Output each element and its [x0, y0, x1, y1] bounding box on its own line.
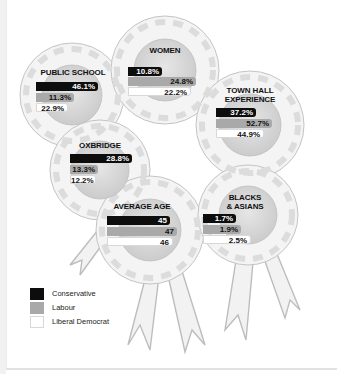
bar-conservative: 28.8% — [70, 154, 132, 163]
rosette-title-line1: TOWN HALL — [210, 86, 290, 95]
bar-labour: 1.9% — [203, 225, 241, 234]
rosette-title: AVERAGE AGE — [104, 202, 180, 211]
rosette-title-line2: EXPERIENCE — [210, 95, 290, 104]
bar-conservative: 45 — [107, 216, 170, 225]
legend-swatch — [30, 288, 44, 300]
bar-conservative: 37.2% — [216, 108, 256, 117]
bar-liberal-democrat: 22.2% — [128, 87, 191, 96]
rosette-title: PUBLIC SCHOOL — [32, 68, 114, 77]
bar-liberal-democrat: 12.2% — [70, 175, 96, 184]
bar-liberal-democrat: 2.5% — [203, 235, 251, 244]
rosette-title: WOMEN — [130, 46, 200, 55]
rosette-title-line1: BLACKS — [210, 193, 280, 202]
bar-labour: 24.8% — [128, 77, 196, 86]
bar-conservative: 10.8% — [128, 67, 162, 76]
legend-item-conservative: Conservative — [30, 287, 109, 300]
bar-labour: 13.3% — [70, 165, 98, 174]
bar-labour: 47 — [107, 227, 177, 236]
legend-swatch — [30, 316, 44, 328]
rosette-title: OXBRIDGE — [65, 141, 135, 150]
bar-labour: 11.3% — [36, 93, 74, 102]
legend-label: Liberal Democrat — [52, 317, 109, 326]
legend-item-labour: Labour — [30, 301, 109, 314]
legend-swatch — [30, 302, 44, 314]
bar-liberal-democrat: 44.9% — [216, 129, 264, 138]
bar-liberal-democrat: 22.9% — [36, 103, 68, 112]
rosette-title-line2: & ASIANS — [210, 202, 280, 211]
legend-item-liberal-democrat: Liberal Democrat — [30, 315, 109, 328]
bar-labour: 52.7% — [216, 119, 272, 128]
bar-conservative: 1.7% — [203, 214, 236, 223]
bar-liberal-democrat: 46 — [107, 237, 173, 246]
legend-label: Conservative — [52, 289, 96, 298]
legend-label: Labour — [52, 303, 75, 312]
legend: Conservative Labour Liberal Democrat — [30, 287, 109, 329]
bar-conservative: 46.1% — [36, 82, 98, 91]
